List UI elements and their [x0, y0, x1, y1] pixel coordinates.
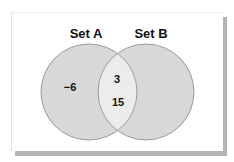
intersection-element: 15 [112, 96, 124, 108]
set-a-label: Set A [70, 26, 103, 41]
intersection-element: 3 [114, 73, 120, 85]
set-b-label: Set B [134, 26, 167, 41]
venn-diagram: Set A Set B −6 3 15 [0, 0, 234, 162]
set-a-only-element: −6 [64, 81, 77, 93]
